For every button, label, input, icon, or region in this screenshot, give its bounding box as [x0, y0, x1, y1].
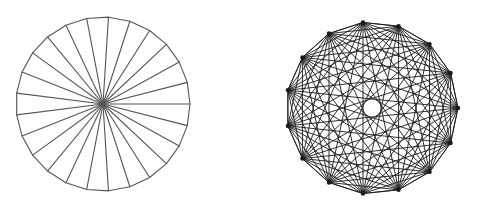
graph-vertex: [396, 188, 400, 192]
graph-vertex: [396, 24, 400, 28]
complete-graph-k15: [286, 20, 461, 195]
spoke: [48, 37, 103, 104]
graph-vertex: [327, 180, 331, 184]
spoke: [48, 104, 103, 171]
graph-vertex: [427, 42, 431, 46]
graph-vertex: [456, 106, 460, 110]
graph-vertex: [427, 170, 431, 174]
spoke: [66, 104, 103, 183]
chord-edge: [302, 57, 458, 108]
graph-vertex: [286, 124, 290, 128]
spoke: [87, 104, 103, 189]
chord-edge: [288, 22, 363, 90]
graph-vertex: [300, 156, 304, 160]
chord-edge: [302, 108, 458, 159]
graph-vertex: [361, 20, 365, 24]
spoke: [103, 82, 187, 104]
chord-edge: [430, 108, 458, 172]
wheel-spoke-polygon: [17, 17, 190, 191]
chord-edge: [288, 126, 363, 194]
chord-edge: [430, 44, 458, 108]
diagram-canvas: [0, 0, 479, 207]
graph-vertex: [448, 141, 452, 145]
graph-vertex: [286, 88, 290, 92]
graph-vertex: [361, 191, 365, 195]
graph-vertex: [448, 71, 452, 75]
spoke: [103, 104, 187, 126]
graph-vertex: [327, 31, 331, 35]
spoke: [66, 25, 103, 104]
spoke: [87, 19, 103, 104]
graph-vertex: [300, 55, 304, 59]
